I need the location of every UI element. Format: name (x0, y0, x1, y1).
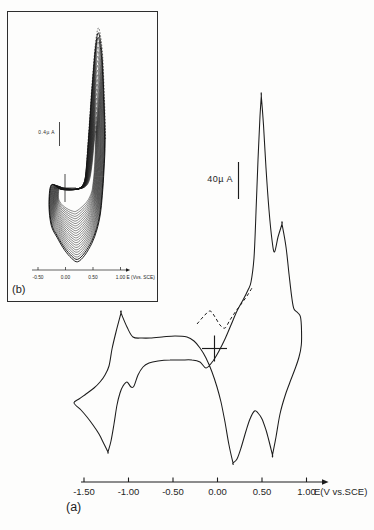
x-axis-arrow-icon (126, 268, 130, 272)
x-axis-label: E(V vs.SCE) (314, 486, 367, 497)
x-tick-label: -1.50 (73, 486, 95, 497)
current-scale-bar-label: 40µ A (207, 174, 233, 184)
x-axis-label: E (Vvs. SCE) (127, 275, 156, 280)
current-scale-bar-label: 0.4µ A (38, 130, 55, 135)
x-tick-label: 0.50 (253, 486, 272, 497)
cv-curve-dashed-segment (197, 288, 252, 328)
panel-b-label: (b) (12, 283, 25, 295)
x-tick-label: 1.00 (116, 275, 126, 280)
x-tick-label: -1.00 (118, 486, 140, 497)
x-tick-label: -0.50 (162, 486, 184, 497)
inset-voltammogram-chart: -0.500.000.501.00E (Vvs. SCE)0.4µ A (8, 12, 157, 301)
inset-panel-b: -0.500.000.501.00E (Vvs. SCE)0.4µ A (b) (7, 11, 158, 302)
x-axis-arrow-icon (322, 479, 329, 485)
x-tick-label: 0.50 (88, 275, 98, 280)
x-tick-label: 0.00 (208, 486, 227, 497)
x-tick-label: 1.00 (297, 486, 316, 497)
x-tick-label: 0.00 (61, 275, 71, 280)
panel-a-label: (a) (66, 500, 81, 514)
x-tick-label: -0.50 (33, 275, 44, 280)
figure-cyclic-voltammetry: -1.50-1.00-0.500.000.501.00E(V vs.SCE)40… (0, 0, 374, 530)
